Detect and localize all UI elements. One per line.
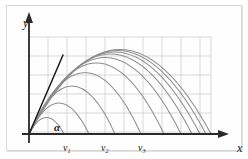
velocity-label-v2: v2 [101,143,109,154]
velocity-label-subscript: 2 [105,147,108,154]
y-axis [25,12,33,143]
velocity-label-v1: v1 [63,143,71,154]
velocity-label-subscript: 1 [67,147,70,154]
launch-angle-label: α [54,122,60,133]
projectile-trajectory-figure: y x α v1 v2 v3 [0,0,248,159]
velocity-label-v3: v3 [138,143,146,154]
y-axis-label: y [23,17,28,29]
trajectory-plot [7,6,243,152]
velocity-label-subscript: 3 [142,147,145,154]
figure-frame: y x α v1 v2 v3 [6,5,242,151]
x-axis-label: x [237,142,242,154]
